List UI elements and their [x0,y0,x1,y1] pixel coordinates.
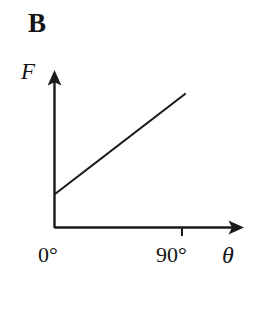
x-tick-label-0: 0° [38,243,58,267]
x-tick-label-90: 90° [156,243,187,267]
figure-panel-b: B F θ 0° 90° [0,0,266,309]
y-axis-label: F [21,60,35,84]
data-line-series-1 [55,94,185,194]
x-axis-label: θ [222,243,234,267]
